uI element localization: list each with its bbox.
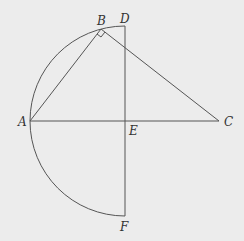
label-a: A	[17, 115, 27, 129]
label-b: B	[96, 14, 106, 28]
label-f: F	[119, 220, 129, 234]
label-c: C	[224, 115, 233, 129]
geometry-diagram: A B C D E F	[0, 0, 244, 241]
segment-ab	[30, 29, 101, 121]
label-e: E	[128, 124, 138, 138]
label-d: D	[119, 12, 130, 26]
segment-bc	[101, 29, 219, 121]
